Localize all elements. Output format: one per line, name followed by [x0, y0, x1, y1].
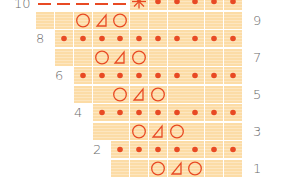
- chart-cell: [149, 86, 167, 103]
- chart-cell: [93, 49, 111, 66]
- row-number-label: 5: [253, 88, 261, 102]
- triangle-icon: [111, 49, 129, 66]
- chart-cell: [186, 30, 204, 47]
- chart-cell: [74, 49, 92, 66]
- chart-cell: [149, 30, 167, 47]
- circle-icon: [130, 123, 148, 140]
- dot-icon: [168, 141, 186, 158]
- chart-cell: [93, 30, 111, 47]
- chart-cell: [55, 49, 73, 66]
- triangle-icon: [130, 86, 148, 103]
- chart-cell: [149, 141, 167, 158]
- chart-cell: [130, 12, 148, 29]
- chart-cell: [111, 86, 129, 103]
- chart-cell: [93, 123, 111, 140]
- chart-cell: [93, 104, 111, 121]
- chart-cell: [205, 67, 223, 84]
- knitting-chart: 10987654321: [0, 0, 284, 191]
- chart-cell: [168, 30, 186, 47]
- chart-cell: [55, 12, 73, 29]
- dot-icon: [149, 30, 167, 47]
- dot-icon: [168, 0, 186, 10]
- asterisk-icon: [130, 0, 148, 10]
- chart-cell: [130, 160, 148, 177]
- dot-icon: [168, 104, 186, 121]
- chart-cell: [130, 67, 148, 84]
- row-number-label: 4: [74, 106, 82, 120]
- dot-icon: [224, 141, 242, 158]
- chart-cell: [149, 12, 167, 29]
- chart-cell: [55, 30, 73, 47]
- chart-cell: [149, 160, 167, 177]
- triangle-icon: [93, 12, 111, 29]
- chart-cell: [205, 86, 223, 103]
- dot-icon: [205, 141, 223, 158]
- chart-cell: [224, 12, 242, 29]
- circle-icon: [149, 160, 167, 177]
- chart-cell: [74, 67, 92, 84]
- circle-icon: [74, 12, 92, 29]
- dot-icon: [224, 0, 242, 10]
- row-number-label: 9: [253, 14, 261, 28]
- row-number-label: 10: [14, 0, 31, 11]
- row-number-label: 2: [93, 143, 101, 157]
- row-number-label: 8: [36, 32, 44, 46]
- chart-cell: [186, 49, 204, 66]
- triangle-icon: [168, 160, 186, 177]
- dot-icon: [55, 30, 73, 47]
- chart-cell: [186, 123, 204, 140]
- dot-icon: [205, 0, 223, 10]
- triangle-icon: [149, 123, 167, 140]
- dot-icon: [74, 67, 92, 84]
- dot-icon: [130, 141, 148, 158]
- chart-cell: [93, 67, 111, 84]
- chart-cell: [224, 104, 242, 121]
- chart-cell: [168, 0, 186, 10]
- chart-cell: [224, 86, 242, 103]
- chart-cell: [74, 12, 92, 29]
- chart-cell: [168, 12, 186, 29]
- chart-cell: [224, 160, 242, 177]
- chart-cell: [168, 67, 186, 84]
- circle-icon: [130, 49, 148, 66]
- dot-icon: [224, 104, 242, 121]
- dot-icon: [149, 141, 167, 158]
- chart-cell: [130, 141, 148, 158]
- dot-icon: [186, 30, 204, 47]
- chart-cell: [111, 30, 129, 47]
- chart-cell: [111, 12, 129, 29]
- dot-icon: [205, 30, 223, 47]
- chart-cell: [224, 123, 242, 140]
- dot-icon: [186, 0, 204, 10]
- chart-cell: [224, 67, 242, 84]
- circle-icon: [111, 86, 129, 103]
- chart-cell: [205, 160, 223, 177]
- dot-icon: [224, 67, 242, 84]
- chart-cell: [205, 12, 223, 29]
- row-number-label: 3: [253, 125, 261, 139]
- circle-icon: [111, 12, 129, 29]
- chart-cell: [168, 141, 186, 158]
- dash-icon: [76, 3, 89, 5]
- chart-cell: [111, 141, 129, 158]
- chart-cell: [205, 49, 223, 66]
- chart-cell: [205, 0, 223, 10]
- chart-cell: [36, 12, 54, 29]
- chart-cell: [111, 49, 129, 66]
- dot-icon: [149, 67, 167, 84]
- chart-cell: [205, 30, 223, 47]
- dot-icon: [149, 0, 167, 10]
- dash-icon: [113, 3, 126, 5]
- chart-cell: [130, 86, 148, 103]
- chart-cell: [111, 67, 129, 84]
- chart-cell: [130, 30, 148, 47]
- chart-cell: [186, 160, 204, 177]
- row-number-label: 1: [253, 162, 261, 176]
- chart-cell: [149, 123, 167, 140]
- dot-icon: [149, 104, 167, 121]
- dot-icon: [186, 104, 204, 121]
- chart-cell: [186, 0, 204, 10]
- chart-cell: [186, 104, 204, 121]
- chart-cell: [205, 104, 223, 121]
- chart-cell: [186, 141, 204, 158]
